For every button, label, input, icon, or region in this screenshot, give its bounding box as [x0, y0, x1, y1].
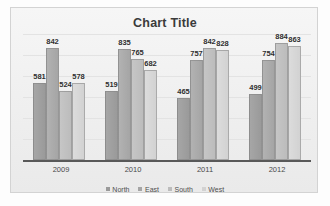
category-label-1: 2010 [103, 165, 163, 174]
plot-area: 581842524578 519835765682 465757842828 4… [23, 34, 311, 160]
bar-north-2012[interactable]: 499 [249, 94, 262, 160]
category-label-2: 2011 [175, 165, 235, 174]
bar-value-label: 835 [118, 38, 131, 47]
bar-value-label: 581 [33, 72, 46, 81]
bar-east-2012[interactable]: 754 [262, 60, 275, 160]
bar-fill [249, 94, 262, 160]
bar-south-2011[interactable]: 842 [203, 48, 216, 160]
bar-fill [288, 46, 301, 160]
bar-value-label: 884 [275, 32, 288, 41]
bar-west-2012[interactable]: 863 [288, 46, 301, 160]
legend-swatch-icon [202, 187, 206, 191]
category-axis-line [23, 160, 311, 162]
bar-fill [262, 60, 275, 160]
bar-south-2010[interactable]: 765 [131, 59, 144, 160]
legend-label: North [112, 186, 129, 193]
bar-north-2009[interactable]: 581 [33, 83, 46, 160]
legend-item-east[interactable]: East [138, 186, 159, 193]
bar-value-label: 754 [262, 49, 275, 58]
bar-value-label: 757 [190, 49, 203, 58]
bar-south-2012[interactable]: 884 [275, 43, 288, 160]
bar-west-2009[interactable]: 578 [72, 83, 85, 160]
bar-fill [46, 48, 59, 160]
legend-swatch-icon [106, 187, 110, 191]
category-label-0: 2009 [31, 165, 91, 174]
bar-fill [33, 83, 46, 160]
category-label-3: 2012 [247, 165, 307, 174]
legend-item-north[interactable]: North [106, 186, 130, 193]
legend-label: East [145, 186, 159, 193]
bar-value-label: 765 [131, 48, 144, 57]
bar-value-label: 842 [203, 37, 216, 46]
bar-fill [144, 70, 157, 160]
bar-fill [131, 59, 144, 160]
bar-value-label: 578 [72, 72, 85, 81]
legend-label: West [208, 186, 224, 193]
bar-north-2011[interactable]: 465 [177, 98, 190, 160]
legend-item-west[interactable]: West [202, 186, 224, 193]
bar-east-2009[interactable]: 842 [46, 48, 59, 160]
bar-fill [177, 98, 190, 160]
bar-value-label: 499 [249, 83, 262, 92]
screenshot-root: Chart Title 581842524578 519835765682 46… [0, 0, 330, 206]
bar-value-label: 842 [46, 37, 59, 46]
bar-group-2009: 581842524578 [33, 34, 89, 160]
bar-value-label: 465 [177, 87, 190, 96]
legend-swatch-icon [138, 187, 142, 191]
bar-south-2009[interactable]: 524 [59, 91, 72, 160]
bar-fill [190, 60, 203, 160]
bar-fill [216, 50, 229, 160]
legend-label: South [175, 186, 193, 193]
bar-value-label: 682 [144, 59, 157, 68]
bar-fill [72, 83, 85, 160]
bar-group-2012: 499754884863 [249, 34, 305, 160]
bar-value-label: 519 [105, 80, 118, 89]
bar-group-2010: 519835765682 [105, 34, 161, 160]
bar-west-2010[interactable]: 682 [144, 70, 157, 160]
bar-east-2010[interactable]: 835 [118, 49, 131, 160]
bar-fill [275, 43, 288, 160]
chart-container[interactable]: Chart Title 581842524578 519835765682 46… [10, 7, 318, 193]
bar-fill [203, 48, 216, 160]
legend-swatch-icon [168, 187, 172, 191]
bar-fill [118, 49, 131, 160]
bar-value-label: 863 [288, 35, 301, 44]
category-axis-labels: 2009 2010 2011 2012 [23, 163, 311, 177]
bar-fill [105, 91, 118, 160]
bar-fill [59, 91, 72, 160]
bar-east-2011[interactable]: 757 [190, 60, 203, 160]
chart-title: Chart Title [11, 16, 319, 30]
bar-value-label: 524 [59, 80, 72, 89]
chart-legend[interactable]: North East South West [11, 182, 319, 196]
bar-west-2011[interactable]: 828 [216, 50, 229, 160]
legend-item-south[interactable]: South [168, 186, 193, 193]
bar-value-label: 828 [216, 39, 229, 48]
bar-north-2010[interactable]: 519 [105, 91, 118, 160]
bar-group-2011: 465757842828 [177, 34, 233, 160]
